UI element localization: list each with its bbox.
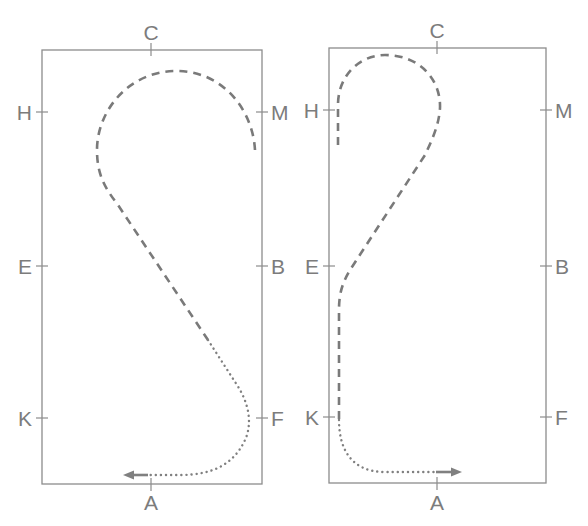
left-label-e: E	[18, 255, 32, 278]
right-dotted-route	[339, 420, 436, 472]
right-direction-arrow-icon	[436, 468, 462, 477]
left-label-b: B	[271, 255, 285, 278]
left-direction-arrow-icon	[123, 471, 148, 480]
right-label-k: K	[305, 406, 319, 429]
left-dashed-route	[97, 71, 255, 340]
right-label-f: F	[555, 406, 568, 429]
right-label-c: C	[429, 19, 444, 42]
right-label-h: H	[304, 99, 319, 122]
left-arena-frame	[42, 50, 262, 484]
right-label-m: M	[555, 99, 573, 122]
right-label-a: A	[430, 491, 444, 514]
right-dashed-route	[338, 55, 440, 420]
right-arena-frame	[329, 48, 546, 483]
left-dotted-route	[150, 340, 249, 475]
right-arena-diagram: C A H E K M B F	[304, 19, 573, 514]
left-label-a: A	[144, 491, 158, 514]
left-label-k: K	[18, 407, 32, 430]
right-label-b: B	[555, 255, 569, 278]
left-label-h: H	[17, 101, 32, 124]
left-label-c: C	[143, 21, 158, 44]
arena-diagrams: C A H E K M B F C A H E K M	[0, 0, 588, 526]
left-label-f: F	[271, 407, 284, 430]
right-label-e: E	[305, 255, 319, 278]
left-arena-diagram: C A H E K M B F	[17, 21, 289, 514]
left-label-m: M	[271, 101, 289, 124]
